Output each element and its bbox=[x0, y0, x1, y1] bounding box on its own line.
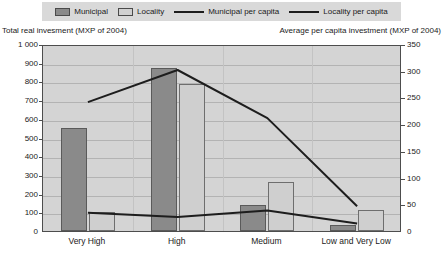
y-tick-label-left: 900 bbox=[2, 60, 38, 68]
left-axis-caption: Total real invesment (MXP of 2004) bbox=[2, 26, 127, 35]
y-tick-left bbox=[39, 45, 43, 46]
legend-swatch-municipal-icon bbox=[55, 8, 70, 16]
y-tick-label-left: 1 000 bbox=[2, 41, 38, 49]
y-tick-left bbox=[39, 64, 43, 65]
legend-item-municipal-per-capita: Municipal per capita bbox=[174, 7, 279, 16]
y-tick-left bbox=[39, 213, 43, 214]
y-tick-left bbox=[39, 157, 43, 158]
y-tick-label-left: 700 bbox=[2, 97, 38, 105]
legend-line-municipal-per-capita-icon bbox=[174, 11, 204, 13]
y-tick-label-left: 0 bbox=[2, 228, 38, 236]
y-tick-label-right: 350 bbox=[407, 41, 437, 49]
x-axis-label-very-high: Very High bbox=[37, 236, 137, 246]
legend-label-locality: Locality bbox=[137, 7, 164, 16]
lines-layer bbox=[43, 46, 402, 233]
y-tick-label-left: 500 bbox=[2, 135, 38, 143]
y-tick-label-right: 250 bbox=[407, 94, 437, 102]
y-tick-right bbox=[401, 205, 405, 206]
y-tick-label-right: 0 bbox=[407, 228, 437, 236]
legend-label-locality-per-capita: Locality per capita bbox=[323, 7, 387, 16]
y-tick-right bbox=[401, 45, 405, 46]
y-tick-label-right: 200 bbox=[407, 121, 437, 129]
y-tick-right bbox=[401, 125, 405, 126]
line-municipal-per-capita bbox=[88, 70, 357, 206]
y-tick-right bbox=[401, 152, 405, 153]
y-tick-label-left: 100 bbox=[2, 209, 38, 217]
y-tick-left bbox=[39, 139, 43, 140]
chart-root: Municipal Locality Municipal per capita … bbox=[0, 0, 443, 262]
y-tick-left bbox=[39, 195, 43, 196]
right-axis-caption: Average per capita investment (MXP of 20… bbox=[279, 26, 441, 35]
y-tick-label-left: 200 bbox=[2, 191, 38, 199]
y-tick-label-right: 100 bbox=[407, 175, 437, 183]
y-tick-right bbox=[401, 179, 405, 180]
y-tick-right bbox=[401, 98, 405, 99]
y-tick-left bbox=[39, 101, 43, 102]
y-tick-right bbox=[401, 72, 405, 73]
legend-swatch-locality-icon bbox=[118, 8, 133, 16]
legend-label-municipal-per-capita: Municipal per capita bbox=[208, 7, 279, 16]
y-tick-label-left: 600 bbox=[2, 116, 38, 124]
y-tick-label-left: 800 bbox=[2, 78, 38, 86]
plot-area bbox=[42, 45, 401, 232]
y-tick-label-right: 150 bbox=[407, 148, 437, 156]
legend-item-municipal: Municipal bbox=[55, 7, 108, 16]
y-tick-label-right: 300 bbox=[407, 68, 437, 76]
y-tick-label-left: 300 bbox=[2, 172, 38, 180]
legend-line-locality-per-capita-icon bbox=[289, 11, 319, 13]
x-axis-label-medium: Medium bbox=[216, 236, 316, 246]
line-locality-per-capita bbox=[88, 211, 357, 224]
legend-item-locality-per-capita: Locality per capita bbox=[289, 7, 387, 16]
y-tick-left bbox=[39, 176, 43, 177]
y-tick-label-left: 400 bbox=[2, 153, 38, 161]
y-tick-left bbox=[39, 82, 43, 83]
y-tick-label-right: 50 bbox=[407, 201, 437, 209]
y-tick-left bbox=[39, 120, 43, 121]
legend-item-locality: Locality bbox=[118, 7, 164, 16]
x-axis-label-high: High bbox=[127, 236, 227, 246]
x-axis-label-low-and-very-low: Low and Very Low bbox=[306, 236, 406, 246]
legend-label-municipal: Municipal bbox=[74, 7, 108, 16]
chart-legend: Municipal Locality Municipal per capita … bbox=[42, 2, 401, 21]
